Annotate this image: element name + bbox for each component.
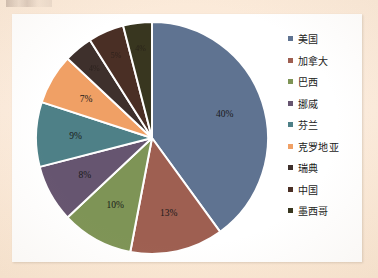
legend-color-swatch-icon bbox=[288, 208, 293, 213]
legend-item-label: 挪威 bbox=[298, 96, 318, 111]
legend-item-label: 中国 bbox=[298, 182, 318, 197]
pie-slice-label: 8% bbox=[79, 170, 92, 180]
pie-slice-label: 10% bbox=[106, 200, 124, 210]
legend-item-label: 加拿大 bbox=[298, 53, 329, 68]
scan-artifact bbox=[6, 0, 52, 7]
legend-item-label: 巴西 bbox=[298, 74, 318, 89]
legend-item[interactable]: 瑞典 bbox=[288, 157, 362, 179]
pie-slice-label: 5% bbox=[111, 51, 122, 60]
pie-slice-label: 4% bbox=[135, 44, 146, 53]
pie-chart-svg: 40%13%10%8%9%7%4%5%4% bbox=[34, 20, 270, 256]
legend-item[interactable]: 巴西 bbox=[288, 71, 362, 93]
legend-item-label: 墨西哥 bbox=[298, 203, 329, 218]
chart-panel: 40%13%10%8%9%7%4%5%4% 美国加拿大巴西挪威芬兰克罗地亚瑞典中… bbox=[12, 14, 362, 262]
legend-item[interactable]: 中国 bbox=[288, 179, 362, 201]
legend-item[interactable]: 美国 bbox=[288, 28, 362, 50]
legend-color-swatch-icon bbox=[288, 122, 293, 127]
legend-color-swatch-icon bbox=[288, 79, 293, 84]
pie-slice-label: 9% bbox=[69, 131, 82, 141]
legend-color-swatch-icon bbox=[288, 36, 293, 41]
legend-item[interactable]: 挪威 bbox=[288, 93, 362, 115]
pie-slice-label: 4% bbox=[89, 64, 100, 73]
pie-slice-label: 40% bbox=[216, 109, 234, 119]
legend-color-swatch-icon bbox=[288, 187, 293, 192]
chart-legend: 美国加拿大巴西挪威芬兰克罗地亚瑞典中国墨西哥 bbox=[288, 28, 362, 248]
page-background: 40%13%10%8%9%7%4%5%4% 美国加拿大巴西挪威芬兰克罗地亚瑞典中… bbox=[0, 0, 378, 278]
legend-item-label: 芬兰 bbox=[298, 117, 318, 132]
legend-item[interactable]: 墨西哥 bbox=[288, 200, 362, 222]
legend-color-swatch-icon bbox=[288, 58, 293, 63]
legend-color-swatch-icon bbox=[288, 165, 293, 170]
legend-item-label: 瑞典 bbox=[298, 160, 318, 175]
legend-item[interactable]: 加拿大 bbox=[288, 50, 362, 72]
pie-chart-plot-area: 40%13%10%8%9%7%4%5%4% bbox=[12, 14, 284, 262]
legend-item-label: 克罗地亚 bbox=[298, 139, 339, 154]
pie-wrap: 40%13%10%8%9%7%4%5%4% bbox=[34, 20, 270, 256]
legend-item[interactable]: 克罗地亚 bbox=[288, 136, 362, 158]
legend-color-swatch-icon bbox=[288, 101, 293, 106]
legend-item-label: 美国 bbox=[298, 31, 318, 46]
pie-slice-label: 7% bbox=[80, 94, 93, 104]
legend-color-swatch-icon bbox=[288, 144, 293, 149]
legend-item[interactable]: 芬兰 bbox=[288, 114, 362, 136]
pie-slice-label: 13% bbox=[160, 208, 178, 218]
